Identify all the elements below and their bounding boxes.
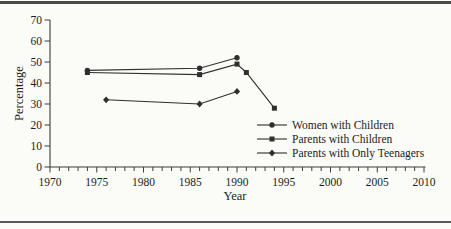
figure: 0102030405060701970197519801985199019952… bbox=[0, 0, 451, 229]
y-tick-label: 10 bbox=[31, 140, 43, 152]
x-tick-label: 2000 bbox=[319, 176, 342, 188]
y-tick-label: 70 bbox=[31, 14, 43, 26]
data-point bbox=[103, 96, 109, 103]
data-point bbox=[234, 88, 240, 95]
data-point bbox=[244, 70, 249, 75]
y-axis-label: Percentage bbox=[12, 44, 27, 144]
x-tick-label: 2005 bbox=[366, 176, 389, 188]
legend-marker bbox=[270, 137, 275, 142]
data-point bbox=[197, 66, 202, 71]
data-point bbox=[234, 55, 239, 60]
y-tick-label: 30 bbox=[31, 98, 43, 110]
bottom-rule bbox=[0, 221, 451, 223]
x-tick-label: 2010 bbox=[413, 176, 436, 188]
x-axis-label: Year bbox=[185, 189, 285, 204]
series-line bbox=[106, 91, 237, 104]
legend-label: Parents with Only Teenagers bbox=[292, 147, 425, 160]
x-tick-label: 1985 bbox=[179, 176, 202, 188]
data-point bbox=[272, 106, 277, 111]
y-tick-label: 0 bbox=[36, 161, 42, 173]
legend-label: Women with Children bbox=[292, 119, 394, 131]
y-tick-label: 60 bbox=[31, 35, 43, 47]
data-point bbox=[197, 72, 202, 77]
y-tick-label: 50 bbox=[31, 56, 43, 68]
x-tick-label: 1975 bbox=[85, 176, 108, 188]
series-line bbox=[87, 58, 237, 71]
x-tick-label: 1980 bbox=[132, 176, 155, 188]
x-tick-label: 1995 bbox=[272, 176, 295, 188]
top-rule bbox=[0, 1, 451, 4]
legend-marker bbox=[269, 150, 275, 157]
y-tick-label: 40 bbox=[31, 77, 43, 89]
x-tick-label: 1970 bbox=[39, 176, 62, 188]
data-point bbox=[197, 101, 203, 108]
legend-marker bbox=[269, 122, 274, 127]
x-tick-label: 1990 bbox=[226, 176, 249, 188]
data-point bbox=[235, 62, 240, 67]
data-point bbox=[85, 70, 90, 75]
legend-label: Parents with Children bbox=[292, 133, 393, 145]
y-tick-label: 20 bbox=[31, 119, 43, 131]
